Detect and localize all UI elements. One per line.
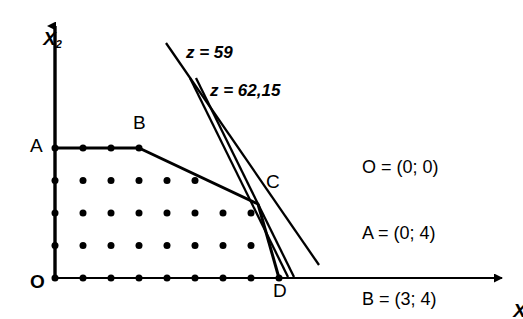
lattice-point — [220, 210, 227, 217]
lattice-point — [164, 275, 171, 282]
lattice-point — [80, 242, 87, 249]
lattice-point — [80, 177, 87, 184]
lattice-point — [108, 210, 115, 217]
vertex-label-a: A — [30, 136, 43, 155]
objective-line-z59 — [166, 43, 319, 265]
lattice-point — [164, 242, 171, 249]
lattice-points-group — [52, 145, 283, 282]
lattice-point — [108, 275, 115, 282]
lattice-point — [80, 145, 87, 152]
lattice-point — [220, 242, 227, 249]
vertex-label-o: O — [30, 272, 45, 291]
lattice-point — [52, 145, 59, 152]
vertex-label-c: C — [266, 172, 280, 191]
lattice-point — [220, 275, 227, 282]
lattice-point — [164, 177, 171, 184]
objective-lines-group — [166, 43, 319, 277]
lattice-point — [108, 145, 115, 152]
lattice-point — [248, 242, 255, 249]
constraint-segment-bc — [139, 148, 258, 204]
lattice-point — [192, 177, 199, 184]
objective-label-z59: z = 59 — [186, 44, 233, 61]
lattice-point — [192, 242, 199, 249]
objective-label-z6215: z = 62,15 — [210, 82, 280, 99]
vertex-coordinates-legend: O = (0; 0) A = (0; 4) B = (3; 4) C = (7,… — [362, 112, 488, 319]
lattice-point — [248, 210, 255, 217]
lattice-point — [80, 210, 87, 217]
legend-line-b: B = (3; 4) — [362, 288, 488, 310]
figure-canvas: X2 X1 O A B C D z = 59 z = 62,15 O = (0;… — [0, 0, 523, 319]
legend-line-a: A = (0; 4) — [362, 222, 488, 244]
lattice-point — [192, 275, 199, 282]
lattice-point — [136, 242, 143, 249]
lattice-point — [136, 275, 143, 282]
lattice-point — [52, 210, 59, 217]
legend-line-o: O = (0; 0) — [362, 156, 488, 178]
lattice-point — [52, 275, 59, 282]
x-axis-label: X1 — [492, 282, 523, 319]
lattice-point — [192, 210, 199, 217]
lattice-point — [136, 177, 143, 184]
lattice-point — [248, 275, 255, 282]
lattice-point — [136, 210, 143, 217]
lattice-point — [108, 177, 115, 184]
lattice-point — [80, 275, 87, 282]
lattice-point — [52, 177, 59, 184]
lattice-point — [164, 210, 171, 217]
lattice-point — [52, 242, 59, 249]
vertex-label-b: B — [133, 113, 146, 132]
y-axis-label: X2 — [22, 10, 62, 69]
vertex-label-d: D — [273, 281, 287, 300]
lattice-point — [108, 242, 115, 249]
lattice-point — [136, 145, 143, 152]
